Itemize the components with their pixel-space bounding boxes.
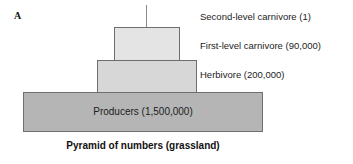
pyramid-of-numbers-figure: A Producers (1,500,000) Second-level car… [0, 0, 353, 164]
pyramid-tier-second-level-carnivore [146, 5, 147, 27]
figure-caption: Pyramid of numbers (grassland) [0, 141, 286, 151]
pyramid-tier-producers: Producers (1,500,000) [23, 92, 263, 132]
annotation-first-level-carnivore: First-level carnivore (90,000) [200, 41, 321, 51]
annotation-second-level-carnivore: Second-level carnivore (1) [200, 12, 311, 22]
pyramid-tier-producers-label: Producers (1,500,000) [24, 107, 262, 117]
pyramid-tier-herbivore [97, 60, 197, 93]
panel-letter: A [14, 11, 21, 21]
pyramid-tier-first-level-carnivore [114, 27, 180, 61]
annotation-herbivore: Herbivore (200,000) [200, 70, 285, 80]
